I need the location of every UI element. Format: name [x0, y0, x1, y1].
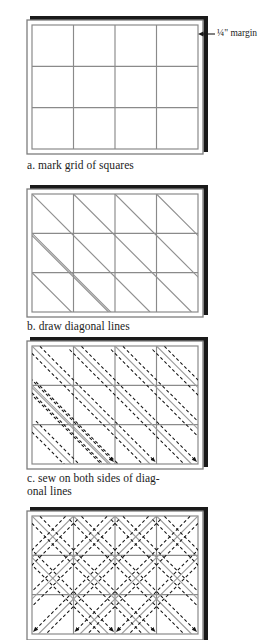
panel-d-svg — [22, 505, 222, 640]
quilting-steps-figure: ¼" margin a. mark grid of squares — [0, 0, 278, 640]
panel-a-svg — [22, 14, 222, 159]
panel-a-caption: a. mark grid of squares — [27, 159, 134, 172]
panel-b-caption: b. draw diagonal lines — [27, 320, 130, 333]
panel-c-svg — [22, 335, 222, 473]
panel-c-caption: c. sew on both sides of diag- onal lines — [27, 472, 160, 497]
panel-d-artwork — [22, 505, 222, 640]
panel-c: c. sew on both sides of diag- onal lines — [0, 332, 278, 495]
panel-b: b. draw diagonal lines — [0, 180, 278, 332]
panel-d — [0, 502, 278, 640]
panel-c-artwork — [22, 335, 222, 473]
panel-a-artwork — [22, 14, 222, 159]
panel-b-svg — [22, 183, 222, 321]
panel-a: ¼" margin a. mark grid of squares — [0, 0, 278, 180]
panel-b-artwork — [22, 183, 222, 321]
margin-annotation-label: ¼" margin — [217, 28, 257, 38]
